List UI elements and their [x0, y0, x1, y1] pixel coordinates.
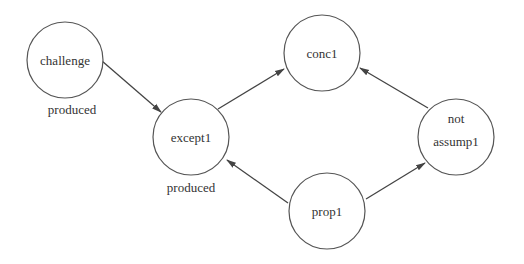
edge-notassump1-to-conc1	[360, 68, 428, 108]
node-prop1: prop1	[289, 173, 365, 249]
node-label-line2: assump1	[433, 134, 479, 149]
argument-graph: challenge produced conc1 except1 produce…	[0, 0, 524, 264]
produced-annotation-challenge: produced	[48, 102, 97, 117]
node-not-assump1: not assump1	[418, 99, 494, 175]
edge-prop1-to-except1	[227, 160, 288, 203]
node-conc1: conc1	[284, 15, 360, 91]
node-label: conc1	[306, 46, 337, 61]
node-label: except1	[171, 130, 211, 145]
produced-annotation-except1: produced	[167, 180, 216, 195]
node-label: challenge	[40, 53, 90, 68]
edge-except1-to-conc1	[218, 69, 284, 109]
edge-challenge-to-except1	[102, 61, 161, 112]
edge-prop1-to-notassump1	[366, 163, 425, 199]
node-label-line1: not	[448, 111, 465, 126]
node-except1: except1	[153, 99, 229, 175]
node-label: prop1	[312, 204, 342, 219]
node-challenge: challenge	[27, 22, 103, 98]
